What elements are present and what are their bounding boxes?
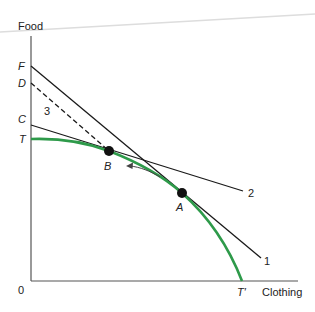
- ppf-diagram: Food Clothing 0 F D C T T′ B A 3 2 1: [0, 0, 315, 312]
- intercept-f-label: F: [18, 60, 26, 72]
- intercept-d-label: D: [18, 77, 26, 89]
- line-2-label: 2: [248, 187, 254, 199]
- point-b-dot: [104, 146, 114, 156]
- production-possibility-frontier: [31, 139, 242, 281]
- point-a-dot: [177, 188, 187, 198]
- intercept-t-prime-label: T′: [237, 286, 247, 298]
- arrowhead-icon: [126, 163, 133, 170]
- page-edge-line: [0, 14, 315, 32]
- origin-label: 0: [18, 284, 24, 296]
- price-line-1: [31, 66, 261, 258]
- point-b-label: B: [104, 160, 111, 172]
- y-axis-label: Food: [18, 20, 43, 32]
- price-line-2: [31, 125, 243, 191]
- line-3-label: 3: [44, 105, 50, 117]
- intercept-c-label: C: [18, 113, 26, 125]
- line-1-label: 1: [264, 255, 270, 267]
- x-axis-label: Clothing: [262, 286, 302, 298]
- point-a-label: A: [175, 201, 183, 213]
- intercept-t-label: T: [19, 133, 27, 145]
